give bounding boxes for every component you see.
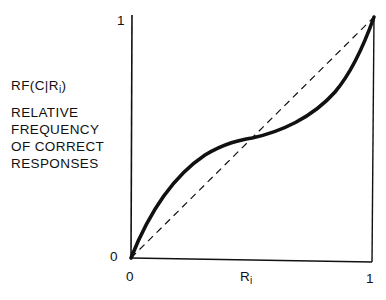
- y-label-line-4: RESPONSES: [11, 155, 104, 172]
- x-tick-right: 1: [366, 272, 374, 286]
- y-axis-label: RF(C|Ri) RELATIVE FREQUENCY OF CORRECT R…: [11, 77, 104, 172]
- y-label-line-3: OF CORRECT: [11, 138, 104, 155]
- y-tick-top: 1: [117, 14, 125, 28]
- x-tick-left: 0: [126, 270, 134, 284]
- right-boundary-line: [372, 17, 374, 262]
- y-axis-symbol: RF(C|Ri): [11, 77, 104, 98]
- x-axis: [131, 258, 372, 262]
- y-label-line-1: RELATIVE: [11, 104, 104, 121]
- x-axis-label: Ri: [240, 270, 253, 286]
- y-tick-bottom: 0: [110, 250, 118, 264]
- y-axis: [131, 15, 132, 258]
- y-label-line-2: FREQUENCY: [11, 121, 104, 138]
